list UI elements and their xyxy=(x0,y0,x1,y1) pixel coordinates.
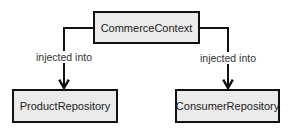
node-label: ConsumerRepository xyxy=(176,100,279,112)
edge-label-product: injected into xyxy=(35,51,93,63)
node-label: CommerceContext xyxy=(101,22,193,34)
commerce-context-node: CommerceContext xyxy=(93,11,200,44)
consumer-repository-node: ConsumerRepository xyxy=(175,89,280,123)
product-repository-node: ProductRepository xyxy=(12,89,118,123)
node-label: ProductRepository xyxy=(20,100,111,112)
edge-label-consumer: injected into xyxy=(199,52,257,64)
